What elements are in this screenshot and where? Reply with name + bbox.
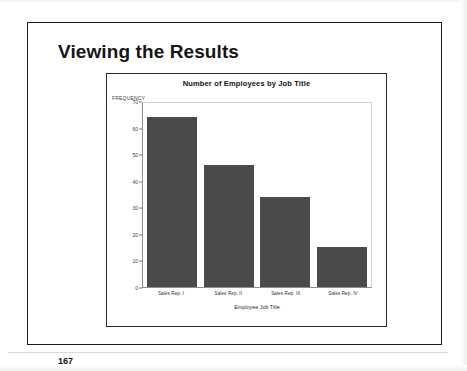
chart-bar xyxy=(317,247,367,287)
chart-bars xyxy=(143,103,371,287)
chart-bar xyxy=(147,117,197,287)
chart-bar xyxy=(204,165,254,287)
slide-frame: Viewing the Results Number of Employees … xyxy=(27,22,442,345)
chart-y-axis-ticks: 010203040506070 xyxy=(107,102,142,289)
y-axis-tick-label: 60 xyxy=(132,126,138,132)
y-axis-tick-label: 10 xyxy=(132,258,138,264)
y-axis-tick-label: 30 xyxy=(132,205,138,211)
page-edge-right xyxy=(461,0,467,371)
x-axis-tick-label: Sales Rep. I xyxy=(146,291,196,296)
y-axis-tick-label: 20 xyxy=(132,232,138,238)
x-axis-tick-label: Sales Rep. III xyxy=(261,291,311,296)
chart-y-axis-label: FREQUENCY xyxy=(112,95,145,101)
chart-x-axis-ticks: Sales Rep. ISales Rep. IISales Rep. IIIS… xyxy=(142,291,372,296)
page-edge-top xyxy=(0,0,467,3)
chart-plot-area xyxy=(142,102,372,288)
chart-bar xyxy=(260,197,310,287)
y-axis-tick-label: 0 xyxy=(135,285,138,291)
chart-title: Number of Employees by Job Title xyxy=(107,79,386,88)
page-number: 167 xyxy=(58,356,73,366)
chart-container: Number of Employees by Job Title FREQUEN… xyxy=(106,73,387,327)
x-axis-tick-label: Sales Rep. IV xyxy=(318,291,368,296)
chart-x-axis-label: Employee Job Title xyxy=(142,304,372,310)
y-axis-tick-label: 70 xyxy=(132,99,138,105)
footer-rule xyxy=(8,352,448,353)
slide-title: Viewing the Results xyxy=(58,41,239,63)
y-axis-tick-label: 40 xyxy=(132,179,138,185)
x-axis-tick-label: Sales Rep. II xyxy=(203,291,253,296)
y-axis-tick-label: 50 xyxy=(132,152,138,158)
